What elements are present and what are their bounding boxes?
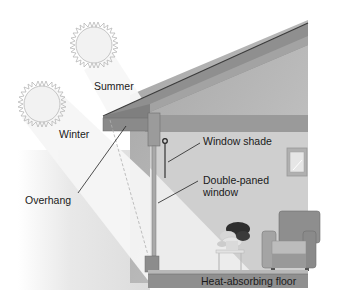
- label-heat-absorbing-floor: Heat-absorbing floor: [201, 276, 296, 288]
- summer-sun-icon: [70, 22, 118, 68]
- label-window-shade: Window shade: [203, 136, 272, 148]
- wall-mirror: [287, 148, 307, 176]
- winter-sun-icon: [18, 81, 66, 127]
- label-summer: Summer: [94, 81, 134, 93]
- label-double-paned-window-line1: Double-paned: [203, 175, 269, 187]
- passive-solar-diagram: Summer Winter Overhang Window shade Doub…: [0, 0, 352, 306]
- label-overhang: Overhang: [25, 195, 71, 207]
- label-winter: Winter: [59, 129, 89, 141]
- label-double-paned-window-line2: window: [203, 187, 238, 199]
- diagram-canvas: [0, 0, 352, 306]
